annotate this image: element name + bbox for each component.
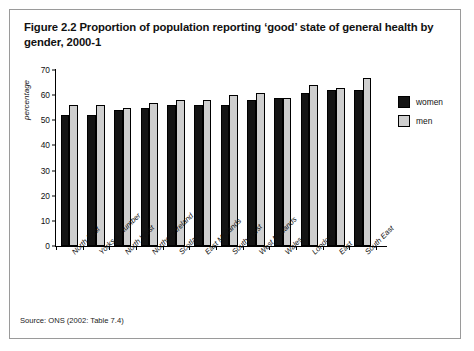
bar-men <box>309 85 318 246</box>
bar-women <box>354 90 363 246</box>
y-axis-tick-mark <box>52 120 56 121</box>
bar-men <box>96 105 105 246</box>
page-title: Figure 2.2 Proportion of population repo… <box>24 20 434 50</box>
legend-label: women <box>416 97 443 107</box>
bar-group <box>327 70 345 246</box>
source-note: Source: ONS (2002: Table 7.4) <box>20 316 124 325</box>
legend-item: women <box>398 96 443 108</box>
y-axis-label: percentage <box>22 80 31 120</box>
y-axis-tick-mark <box>52 170 56 171</box>
bar-men <box>363 78 372 246</box>
bar-group <box>354 70 372 246</box>
bar-group <box>247 70 265 246</box>
bar-women <box>61 115 70 246</box>
figure-page: Figure 2.2 Proportion of population repo… <box>0 0 474 351</box>
y-axis-tick-mark <box>52 95 56 96</box>
bar-group <box>301 70 319 246</box>
legend-swatch-women <box>398 96 410 108</box>
bar-women <box>194 105 203 246</box>
legend-swatch-men <box>398 115 410 127</box>
plot-area: 010203040506070 <box>56 70 376 246</box>
legend-item: men <box>398 115 443 127</box>
bar-women <box>301 93 310 246</box>
bar-men <box>203 100 212 246</box>
y-axis-tick-mark <box>52 195 56 196</box>
legend: womenmen <box>398 96 443 134</box>
x-axis-tick-mark <box>56 246 57 250</box>
legend-label: men <box>416 116 432 126</box>
bar-group <box>61 70 79 246</box>
bar-group <box>141 70 159 246</box>
y-axis-tick-mark <box>52 220 56 221</box>
bar-women <box>327 90 336 246</box>
bar-group <box>194 70 212 246</box>
y-axis-tick-mark <box>52 145 56 146</box>
y-axis-tick-mark <box>52 70 56 71</box>
bar-men <box>336 88 345 246</box>
bar-men <box>69 105 78 246</box>
bar-group <box>87 70 105 246</box>
